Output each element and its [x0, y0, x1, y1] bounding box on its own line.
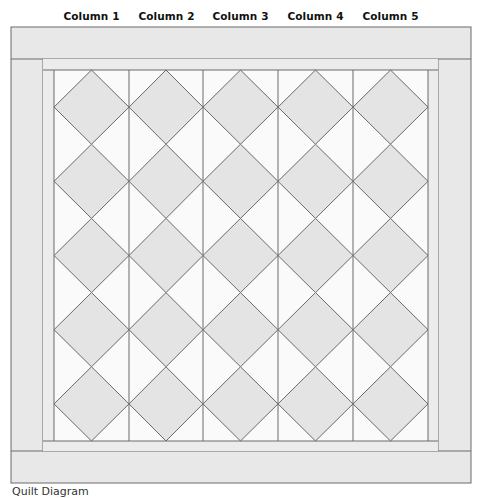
- diagram-caption: Quilt Diagram: [12, 485, 89, 498]
